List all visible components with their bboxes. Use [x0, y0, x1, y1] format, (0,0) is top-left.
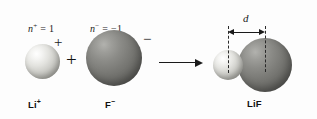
center-dashed-line-fluorine	[265, 26, 266, 72]
reaction-arrow-shaft	[159, 62, 197, 63]
f-charge-superscript: −	[111, 98, 115, 105]
cation-n-value: = 1	[38, 23, 55, 34]
lithium-fluoride-species-label: LiF	[247, 98, 262, 109]
center-dashed-line-lithium	[228, 26, 229, 73]
li-text: Li	[28, 99, 37, 110]
cation-charge-number-label: n+ = 1	[28, 22, 54, 34]
ionic-bond-formation-figure: n+ = 1 + Li+ + n− = −1 − F− d LiF	[0, 0, 317, 119]
distance-arrow-shaft	[232, 32, 261, 33]
reaction-arrow-icon	[159, 58, 203, 67]
addition-operator: +	[66, 50, 77, 69]
fluoride-anion-species-label: F−	[105, 98, 115, 110]
li-charge-superscript: +	[37, 98, 41, 105]
bond-distance-double-arrow-icon	[228, 28, 265, 36]
reaction-arrow-head	[195, 59, 203, 67]
bond-distance-label: d	[243, 12, 249, 24]
fluoride-anion-sphere	[86, 30, 142, 86]
anion-negative-charge-sign: −	[143, 32, 151, 47]
lithium-cation-species-label: Li+	[28, 98, 41, 110]
cation-positive-charge-sign: +	[54, 35, 62, 50]
